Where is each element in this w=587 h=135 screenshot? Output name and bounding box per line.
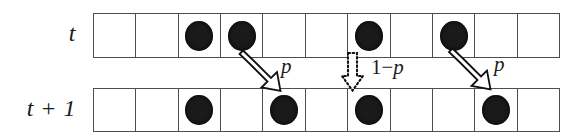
lattice-cell — [136, 89, 178, 131]
lattice-cell — [475, 89, 517, 131]
particle-marker — [228, 21, 256, 51]
one-minus-p-minus: − — [382, 55, 394, 79]
lattice-row-t — [93, 13, 560, 58]
lattice-cell — [475, 14, 517, 57]
probability-label-p-right: p — [494, 52, 505, 77]
particle-marker — [482, 95, 510, 125]
particle-marker — [185, 21, 213, 51]
row-label-t: t — [0, 20, 76, 47]
lattice-cell — [433, 89, 475, 131]
lattice-cell — [518, 89, 560, 131]
lattice-cell — [306, 89, 348, 131]
lattice-cell — [136, 14, 178, 57]
lattice-cell — [94, 89, 136, 131]
particle-marker — [440, 21, 468, 51]
lattice-cell — [518, 14, 560, 57]
lattice-cell — [179, 89, 221, 131]
particle-marker — [355, 95, 383, 125]
lattice-cell — [94, 14, 136, 57]
lattice-cell — [263, 89, 305, 131]
particle-marker — [270, 95, 298, 125]
probability-label-p-left: p — [281, 54, 292, 79]
lattice-cell — [433, 14, 475, 57]
probability-label-one-minus-p: 1−p — [371, 55, 404, 80]
one-minus-p-prefix: 1 — [371, 55, 382, 79]
lattice-cell — [179, 14, 221, 57]
particle-marker — [185, 95, 213, 125]
lattice-cell — [221, 89, 263, 131]
lattice-transition-figure: t t + 1 — [0, 0, 587, 135]
lattice-cell — [306, 14, 348, 57]
one-minus-p-suffix: p — [393, 55, 404, 79]
lattice-cell — [263, 14, 305, 57]
lattice-cell — [348, 89, 390, 131]
lattice-row-t-plus-1 — [93, 88, 560, 132]
stay-arrow-dotted — [342, 53, 363, 91]
lattice-cell — [391, 14, 433, 57]
lattice-cell — [391, 89, 433, 131]
particle-marker — [355, 21, 383, 51]
lattice-cell — [221, 14, 263, 57]
lattice-cell — [348, 14, 390, 57]
row-label-t-plus-1: t + 1 — [0, 95, 76, 122]
